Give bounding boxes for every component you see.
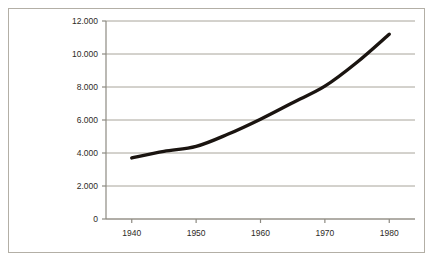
line-chart: 02.0004.0006.0008.00010.00012.0001940195… (9, 9, 424, 252)
x-tick-label: 1950 (187, 228, 206, 238)
x-tick-label: 1940 (122, 228, 141, 238)
x-tick-label: 1960 (251, 228, 270, 238)
y-tick-label: 2.000 (77, 181, 99, 191)
y-axis-ticks: 02.0004.0006.0008.00010.00012.000 (72, 16, 106, 224)
series-group (132, 34, 390, 158)
y-tick-label: 12.000 (72, 16, 98, 26)
data-line (132, 34, 390, 158)
y-tick-label: 4.000 (77, 148, 99, 158)
y-tick-label: 10.000 (72, 49, 98, 59)
chart-frame: 02.0004.0006.0008.00010.00012.0001940195… (8, 8, 425, 253)
y-tick-label: 0 (93, 214, 98, 224)
x-axis-ticks: 19401950196019701980 (122, 219, 399, 238)
y-tick-label: 6.000 (77, 115, 99, 125)
chart-figure: 02.0004.0006.0008.00010.00012.0001940195… (0, 0, 434, 263)
x-tick-label: 1970 (315, 228, 334, 238)
x-tick-label: 1980 (380, 228, 399, 238)
y-tick-label: 8.000 (77, 82, 99, 92)
